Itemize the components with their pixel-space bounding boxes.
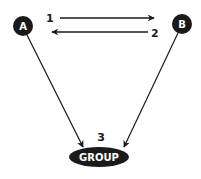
step-label-1: 1 xyxy=(46,12,54,25)
node-group: GROUP xyxy=(69,147,129,167)
step-label-2: 2 xyxy=(151,27,159,40)
arrow-line xyxy=(124,33,178,147)
step-label-3: 3 xyxy=(97,131,105,144)
edge-a-to-group xyxy=(27,35,83,147)
node-a-label: A xyxy=(19,21,27,32)
flow-diagram: 1 2 A B 3 GROUP xyxy=(0,0,201,179)
node-b: B xyxy=(172,14,192,34)
arrow-line xyxy=(27,35,83,147)
node-group-label: GROUP xyxy=(79,152,119,163)
node-a: A xyxy=(13,16,33,36)
edge-b-to-group xyxy=(124,33,178,147)
node-b-label: B xyxy=(178,19,186,30)
